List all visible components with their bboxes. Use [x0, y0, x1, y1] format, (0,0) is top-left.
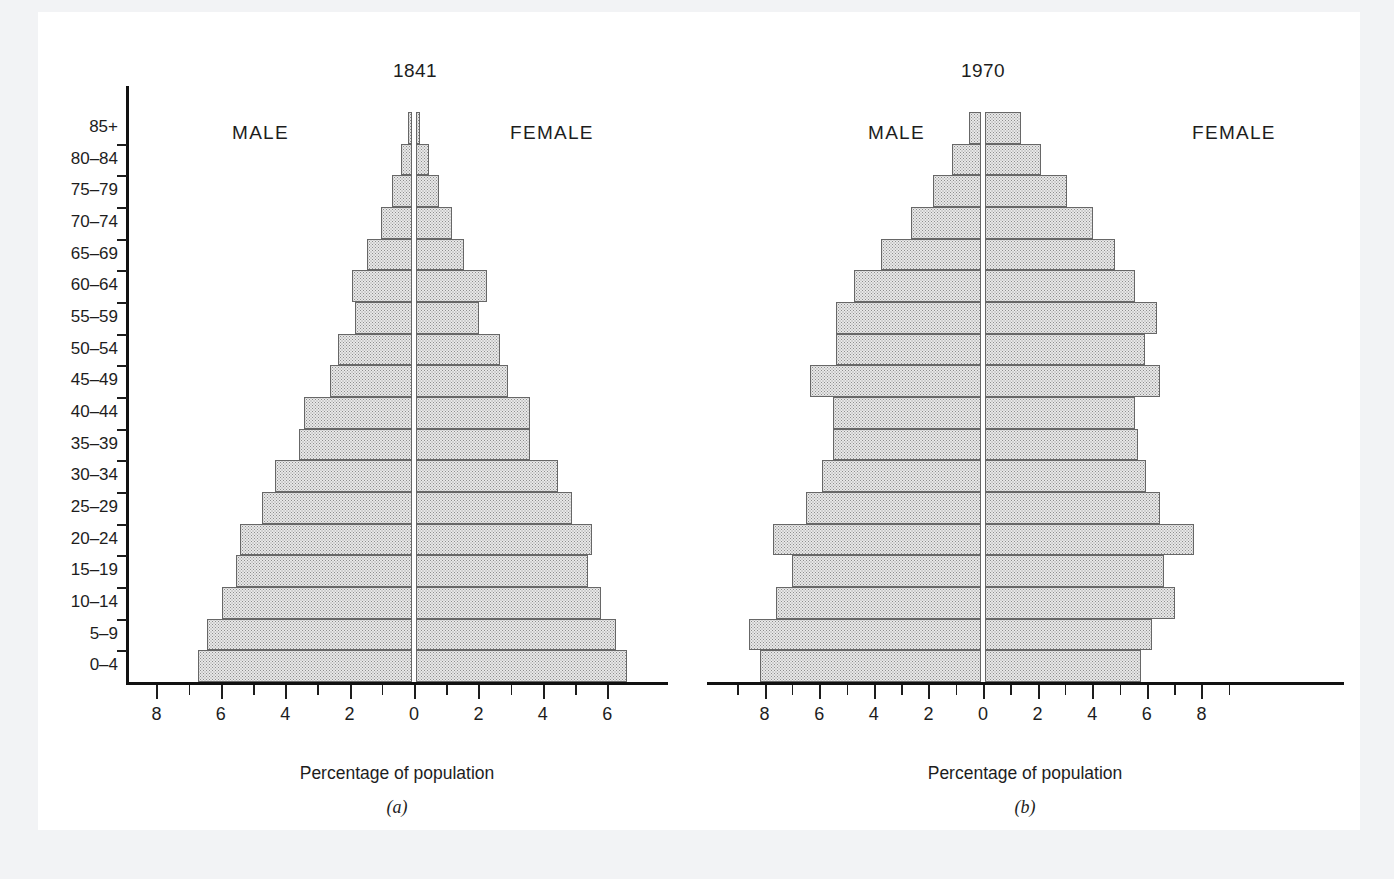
x-tick-minor: [1010, 685, 1012, 695]
bar-male-1970-20–24: [773, 524, 980, 556]
bar-male-1970-30–34: [822, 460, 980, 492]
y-tick: [117, 207, 127, 209]
age-group-label-35–39: 35–39: [0, 434, 118, 454]
bar-female-1970-40–44: [985, 397, 1135, 429]
bar-male-1970-15–19: [792, 555, 980, 587]
x-tick-major: [1147, 685, 1149, 699]
bar-male-1841-60–64: [352, 270, 412, 302]
bar-female-1970-80–84: [985, 144, 1041, 176]
x-tick-label: 0: [389, 704, 439, 725]
panel-1841-axis-title: Percentage of population: [247, 763, 547, 784]
age-group-label-25–29: 25–29: [0, 497, 118, 517]
panel-1970-x-axis: [707, 682, 1344, 685]
y-tick: [117, 555, 127, 557]
bar-male-1841-20–24: [240, 524, 412, 556]
age-group-label-50–54: 50–54: [0, 339, 118, 359]
bar-female-1841-20–24: [416, 524, 591, 556]
x-tick-label: 2: [903, 704, 953, 725]
age-group-label-15–19: 15–19: [0, 560, 118, 580]
age-group-label-70–74: 70–74: [0, 212, 118, 232]
bar-female-1970-50–54: [985, 334, 1145, 366]
bar-female-1841-30–34: [416, 460, 558, 492]
y-tick: [117, 650, 127, 652]
x-tick-label: 2: [1013, 704, 1063, 725]
bar-male-1841-10–14: [222, 587, 412, 619]
y-tick: [117, 619, 127, 621]
panel-1970-title: 1970: [908, 60, 1058, 82]
bar-male-1841-40–44: [304, 397, 412, 429]
x-tick-major: [1201, 685, 1203, 699]
x-tick-minor: [956, 685, 958, 695]
y-tick: [117, 524, 127, 526]
x-tick-minor: [189, 685, 191, 695]
bar-male-1970-70–74: [911, 207, 981, 239]
bar-male-1841-25–29: [262, 492, 412, 524]
panel-1841-male-label: MALE: [232, 122, 289, 144]
x-tick-minor: [253, 685, 255, 695]
bar-male-1970-25–29: [806, 492, 981, 524]
bar-female-1841-65–69: [416, 239, 464, 271]
x-tick-minor: [1174, 685, 1176, 695]
x-tick-label: 4: [1067, 704, 1117, 725]
bar-female-1970-20–24: [985, 524, 1194, 556]
bar-female-1841-25–29: [416, 492, 572, 524]
bar-male-1970-35–39: [833, 429, 980, 461]
bar-male-1841-85+: [408, 112, 412, 144]
panel-1841-x-axis: [126, 682, 668, 685]
bar-female-1841-85+: [416, 112, 420, 144]
bar-male-1970-40–44: [833, 397, 980, 429]
bar-male-1970-80–84: [952, 144, 981, 176]
bar-female-1970-30–34: [985, 460, 1146, 492]
bar-female-1841-10–14: [416, 587, 601, 619]
x-tick-major: [156, 685, 158, 699]
y-tick: [117, 239, 127, 241]
panel-1970-axis-title: Percentage of population: [875, 763, 1175, 784]
bar-female-1841-5–9: [416, 619, 616, 651]
x-tick-major: [928, 685, 930, 699]
x-tick-minor: [847, 685, 849, 695]
x-tick-label: 6: [582, 704, 632, 725]
y-tick: [117, 397, 127, 399]
panel-1841-title: 1841: [340, 60, 490, 82]
bar-female-1841-15–19: [416, 555, 588, 587]
x-tick-minor: [317, 685, 319, 695]
bar-female-1841-80–84: [416, 144, 429, 176]
age-group-label-80–84: 80–84: [0, 149, 118, 169]
x-tick-major: [765, 685, 767, 699]
age-group-label-10–14: 10–14: [0, 592, 118, 612]
bar-female-1841-75–79: [416, 175, 439, 207]
y-tick: [117, 144, 127, 146]
bar-female-1970-25–29: [985, 492, 1160, 524]
bar-female-1841-45–49: [416, 365, 508, 397]
x-tick-label: 6: [1122, 704, 1172, 725]
x-tick-major: [874, 685, 876, 699]
bar-male-1841-80–84: [401, 144, 412, 176]
x-tick-label: 8: [1176, 704, 1226, 725]
panel-1841-female-label: FEMALE: [510, 122, 594, 144]
age-group-label-55–59: 55–59: [0, 307, 118, 327]
bar-male-1970-60–64: [854, 270, 981, 302]
x-tick-label: 4: [849, 704, 899, 725]
panel-1970-male-label: MALE: [868, 122, 925, 144]
x-tick-minor: [382, 685, 384, 695]
bar-female-1970-85+: [985, 112, 1020, 144]
bar-male-1970-5–9: [749, 619, 981, 651]
y-tick: [117, 302, 127, 304]
bar-female-1841-35–39: [416, 429, 530, 461]
age-group-label-75–79: 75–79: [0, 180, 118, 200]
x-tick-major: [1038, 685, 1040, 699]
bar-male-1841-45–49: [330, 365, 412, 397]
panel-1970-female-label: FEMALE: [1192, 122, 1276, 144]
x-tick-minor: [1065, 685, 1067, 695]
y-tick: [117, 175, 127, 177]
x-tick-major: [414, 685, 416, 699]
x-tick-minor: [901, 685, 903, 695]
x-tick-major: [478, 685, 480, 699]
y-tick: [117, 365, 127, 367]
bar-male-1970-85+: [969, 112, 981, 144]
bar-male-1841-65–69: [367, 239, 412, 271]
bar-female-1841-50–54: [416, 334, 500, 366]
bar-female-1970-0–4: [985, 650, 1141, 682]
bar-male-1841-70–74: [381, 207, 412, 239]
bar-female-1970-10–14: [985, 587, 1175, 619]
